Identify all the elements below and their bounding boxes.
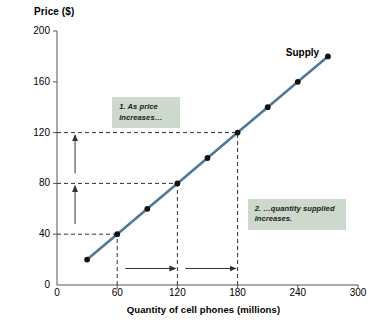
annotation-callout-1-line1: 1. As price [119,102,173,113]
supply-curve-figure: Price ($) 04080120160200 060120180240300… [0,0,373,322]
x-axis-title: Quantity of cell phones (millions) [0,304,373,315]
annotation-callout-1-line2: increases… [119,113,173,124]
annotation-callout-2-line1: 2. …quantity supplied [255,204,339,215]
annotation-callout-2-line2: increases. [255,214,339,225]
annotation-callout-2: 2. …quantity supplied increases. [248,199,346,230]
series-label-supply: Supply [286,47,319,58]
annotation-callout-1: 1. As price increases… [112,97,180,128]
